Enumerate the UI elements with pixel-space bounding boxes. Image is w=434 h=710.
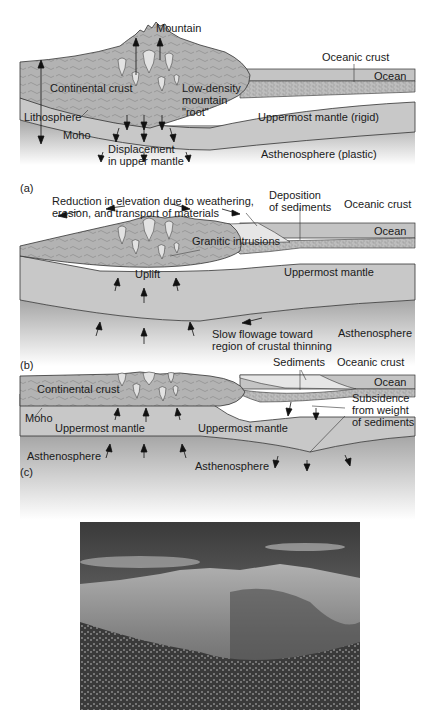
label-continental-crust: Continental crust (37, 383, 120, 395)
label-ocean: Ocean (374, 376, 406, 388)
label-ocean: Ocean (374, 225, 406, 237)
panel-label-a: (a) (20, 182, 33, 194)
label-mountain: Mountain (156, 22, 201, 34)
label-moho: Moho (25, 412, 53, 424)
label-sediments: Sediments (273, 356, 325, 368)
cloud (80, 556, 200, 568)
label-lithosphere: Lithosphere (24, 111, 82, 123)
label-uplift: Uplift (135, 268, 160, 280)
label-granitic-intrusions: Granitic intrusions (192, 235, 280, 247)
label-oceanic-crust: Oceanic crust (337, 356, 404, 368)
label-uppermost-mantle: Uppermost mantle (284, 266, 374, 278)
label-subsidence: Subsidence from weight of sediments (352, 392, 414, 428)
label-reduction-in-elevation: Reduction in elevation due to weathering… (52, 195, 254, 219)
label-oceanic-crust: Oceanic crust (344, 198, 411, 210)
label-moho: Moho (63, 129, 91, 141)
label-asthenosphere-left: Asthenosphere (27, 450, 101, 462)
cloud (265, 543, 345, 551)
label-low-density-root: Low-density mountain "root" (182, 82, 241, 118)
label-continental-crust: Continental crust (50, 82, 133, 94)
oceanic-crust-layer (240, 81, 415, 98)
label-deposition-of-sediments: Deposition of sediments (269, 189, 331, 213)
label-slow-flowage: Slow flowage toward region of crustal th… (212, 328, 332, 352)
label-asthenosphere: Asthenosphere (338, 327, 412, 339)
label-uppermost-mantle-left: Uppermost mantle (55, 422, 145, 434)
panel-label-c: (c) (20, 466, 33, 478)
label-uppermost-mantle-right: Uppermost mantle (198, 422, 288, 434)
label-asthenosphere: Asthenosphere (plastic) (261, 148, 377, 160)
panel-b: Reduction in elevation due to weathering… (0, 196, 434, 366)
mountain-photo-render (80, 522, 360, 710)
asthenosphere-layer (20, 436, 415, 520)
label-oceanic-crust: Oceanic crust (322, 51, 389, 63)
subsidence-leader-top (312, 406, 345, 408)
label-ocean: Ocean (374, 70, 406, 82)
panel-a: Mountain Oceanic crust Ocean Continental… (0, 0, 434, 165)
panel-c: Sediments Oceanic crust Ocean Continenta… (0, 370, 434, 520)
mountain-photograph (80, 522, 360, 710)
label-uppermost-mantle: Uppermost mantle (rigid) (258, 111, 379, 123)
label-displacement: Displacement in upper mantle (108, 143, 184, 167)
label-asthenosphere-right: Asthenosphere (195, 460, 269, 472)
